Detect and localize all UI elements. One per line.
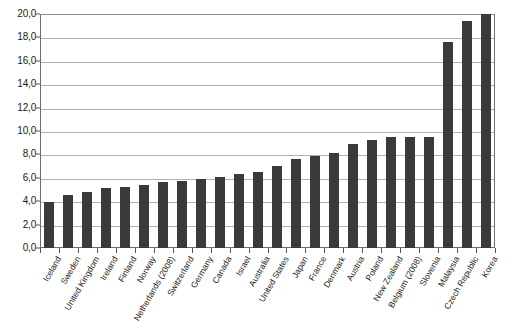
y-tick-label: 2,0 bbox=[0, 220, 36, 230]
bar bbox=[82, 192, 92, 248]
x-tick-label-text: Israel bbox=[235, 255, 253, 278]
bar bbox=[291, 159, 301, 248]
bar bbox=[234, 174, 244, 248]
bar bbox=[215, 177, 225, 248]
bar bbox=[386, 137, 396, 248]
bar bbox=[44, 202, 54, 248]
bars-layer bbox=[40, 14, 495, 248]
y-tick-label: 12,0 bbox=[0, 103, 36, 113]
bar bbox=[272, 166, 282, 248]
bar bbox=[177, 181, 187, 248]
x-tick-label-text: Austria bbox=[346, 255, 367, 282]
bar-chart: 0,02,04,06,08,010,012,014,016,018,020,0 … bbox=[0, 0, 508, 333]
bar bbox=[329, 153, 339, 248]
y-tick-label: 20,0 bbox=[0, 9, 36, 19]
y-tick-label: 6,0 bbox=[0, 173, 36, 183]
y-tick-label: 8,0 bbox=[0, 149, 36, 159]
y-tick-label: 0,0 bbox=[0, 243, 36, 253]
bar bbox=[348, 144, 358, 248]
bar bbox=[139, 185, 149, 248]
bar bbox=[443, 42, 453, 248]
bar bbox=[101, 188, 111, 248]
bar bbox=[424, 137, 434, 248]
y-axis: 0,02,04,06,08,010,012,014,016,018,020,0 bbox=[0, 0, 36, 333]
bar bbox=[310, 156, 320, 248]
bar bbox=[63, 195, 73, 248]
bar bbox=[120, 187, 130, 248]
bar bbox=[462, 21, 472, 248]
y-tick-label: 14,0 bbox=[0, 79, 36, 89]
bar bbox=[253, 172, 263, 248]
x-tick-label-text: Korea bbox=[480, 255, 499, 279]
bar bbox=[196, 179, 206, 248]
bar bbox=[158, 182, 168, 248]
x-axis-labels: IcelandSwedenUnited KingdomIrelandFinlan… bbox=[40, 253, 505, 333]
y-tick-label: 18,0 bbox=[0, 32, 36, 42]
y-tick-label: 4,0 bbox=[0, 196, 36, 206]
bar bbox=[405, 137, 415, 248]
y-tick-label: 16,0 bbox=[0, 56, 36, 66]
bar bbox=[367, 140, 377, 248]
bar bbox=[481, 14, 491, 248]
y-tick-label: 10,0 bbox=[0, 126, 36, 136]
